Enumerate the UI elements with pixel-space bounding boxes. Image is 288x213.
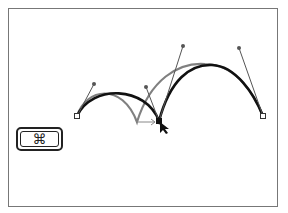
handle-lines: [77, 46, 263, 121]
drag-arrow-icon: [137, 119, 155, 125]
handle-line: [159, 46, 183, 121]
cursor-arrow-icon: [160, 122, 169, 134]
handle-point[interactable]: [92, 82, 96, 86]
command-key-cap: ⌘: [16, 127, 63, 151]
bezier-canvas[interactable]: [0, 0, 288, 213]
handle-point[interactable]: [237, 46, 241, 50]
anchor-point[interactable]: [261, 114, 266, 119]
handle-point[interactable]: [144, 85, 148, 89]
command-key-icon: ⌘: [20, 131, 59, 147]
anchor-point[interactable]: [75, 114, 80, 119]
handle-point[interactable]: [181, 44, 185, 48]
